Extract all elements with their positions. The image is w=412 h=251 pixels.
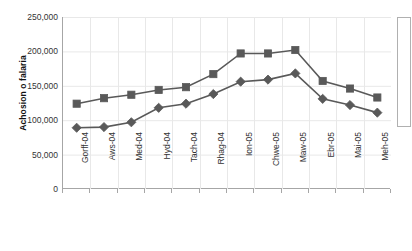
x-axis-tick-labels: Gorff-04Aws-04Med-04Hyd-04Tach-04Rhag-04… — [0, 0, 412, 251]
x-tick-label: Hyd-04 — [162, 132, 172, 196]
x-tick-label: Med-04 — [134, 132, 144, 196]
x-tick-mark — [363, 189, 364, 193]
x-tick-label: Aws-04 — [107, 132, 117, 196]
x-tick-label: Meh-05 — [380, 132, 390, 196]
x-tick-mark — [117, 189, 118, 193]
x-tick-label: Gorff-04 — [80, 132, 90, 196]
x-tick-mark — [226, 189, 227, 193]
x-tick-label: Mai-05 — [353, 132, 363, 196]
x-tick-mark — [308, 189, 309, 193]
x-tick-label: Tach-04 — [189, 132, 199, 196]
x-tick-mark — [199, 189, 200, 193]
x-tick-mark — [390, 189, 391, 193]
x-tick-label: Maw-05 — [298, 132, 308, 196]
x-tick-mark — [144, 189, 145, 193]
x-tick-mark — [281, 189, 282, 193]
x-tick-label: Rhag-04 — [216, 132, 226, 196]
x-tick-label: Chwe-05 — [271, 132, 281, 196]
x-tick-mark — [62, 189, 63, 193]
malaria-cases-line-chart: Achosion o falaria 050,000100,000150,000… — [0, 0, 412, 251]
legend-box-clipped — [397, 17, 411, 127]
x-tick-label: Ion-05 — [244, 132, 254, 196]
x-tick-label: Ebr-05 — [326, 132, 336, 196]
